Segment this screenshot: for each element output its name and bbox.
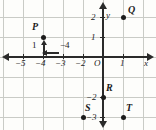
grid-line-horizontal: [0, 37, 156, 38]
point-label-p: P: [32, 21, 38, 32]
point-label-q: Q: [128, 4, 135, 15]
y-tick-label: 1: [91, 32, 96, 42]
y-axis-up-arrow-icon: [99, 2, 107, 9]
y-tick-label: −2: [86, 92, 97, 102]
plotted-point-p: [41, 35, 46, 40]
horizontal-move-label: −4: [60, 40, 70, 50]
x-axis-left-arrow-icon: [2, 53, 9, 61]
x-axis-right-arrow-icon: [147, 53, 154, 61]
x-tick-label: −3: [55, 58, 66, 68]
plotted-point-q: [121, 15, 126, 20]
point-label-s: S: [85, 102, 91, 113]
y-axis-name: y: [106, 10, 110, 20]
y-tick-mark: [100, 17, 105, 18]
grid-line-vertical: [3, 0, 4, 130]
point-label-r: R: [106, 82, 113, 93]
y-tick-label: 2: [91, 12, 96, 22]
grid-line-horizontal: [0, 97, 156, 98]
grid-line-horizontal: [0, 117, 156, 118]
origin-label: O: [94, 58, 101, 68]
horizontal-move-arrow-icon: [42, 50, 47, 56]
grid-line-horizontal: [0, 77, 156, 78]
horizontal-move-arrow-shaft: [46, 52, 59, 54]
x-tick-label: −4: [35, 58, 46, 68]
grid-line-horizontal: [0, 17, 156, 18]
y-axis: [102, 6, 104, 124]
x-tick-label: 1: [120, 58, 125, 68]
y-tick-mark: [100, 117, 105, 118]
coordinate-plane-figure: x y O −5 −4 −3 −2 1 2 1 −2 −3 1 −4 P: [0, 0, 156, 130]
x-tick-label: −5: [15, 58, 26, 68]
point-label-t: T: [126, 102, 132, 113]
y-tick-label: −3: [86, 112, 97, 122]
plotted-point-t: [121, 115, 126, 120]
x-tick-label: −2: [75, 58, 86, 68]
plotted-point-r: [101, 95, 106, 100]
vertical-move-arrow-icon: [41, 40, 47, 45]
y-axis-down-arrow-icon: [99, 121, 107, 128]
x-axis-name: x: [144, 58, 148, 68]
y-tick-mark: [100, 37, 105, 38]
vertical-move-label: 1: [32, 40, 37, 50]
plotted-point-s: [81, 115, 86, 120]
